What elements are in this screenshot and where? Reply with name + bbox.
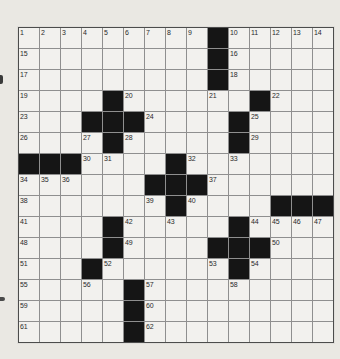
grid-cell-r10c12[interactable]: 44 xyxy=(250,217,270,237)
grid-cell-r15c14[interactable] xyxy=(292,322,312,342)
grid-cell-r7c9[interactable]: 32 xyxy=(187,154,207,174)
grid-cell-r10c4[interactable] xyxy=(82,217,102,237)
grid-cell-r9c4[interactable] xyxy=(82,196,102,216)
grid-cell-r11c4[interactable] xyxy=(82,238,102,258)
grid-cell-r11c8[interactable] xyxy=(166,238,186,258)
grid-cell-r14c2[interactable] xyxy=(40,301,60,321)
grid-cell-r10c15[interactable]: 47 xyxy=(313,217,333,237)
grid-cell-r15c12[interactable] xyxy=(250,322,270,342)
grid-cell-r7c14[interactable] xyxy=(292,154,312,174)
grid-cell-r2c14[interactable] xyxy=(292,49,312,69)
grid-cell-r12c10[interactable]: 53 xyxy=(208,259,228,279)
grid-cell-r4c9[interactable] xyxy=(187,91,207,111)
grid-cell-r12c14[interactable] xyxy=(292,259,312,279)
grid-cell-r2c12[interactable] xyxy=(250,49,270,69)
grid-cell-r3c5[interactable] xyxy=(103,70,123,90)
grid-cell-r2c11[interactable]: 16 xyxy=(229,49,249,69)
grid-cell-r13c3[interactable] xyxy=(61,280,81,300)
grid-cell-r3c12[interactable] xyxy=(250,70,270,90)
grid-cell-r13c8[interactable] xyxy=(166,280,186,300)
grid-cell-r9c3[interactable] xyxy=(61,196,81,216)
grid-cell-r4c2[interactable] xyxy=(40,91,60,111)
grid-cell-r9c6[interactable] xyxy=(124,196,144,216)
grid-cell-r15c1[interactable]: 61 xyxy=(19,322,39,342)
grid-cell-r10c13[interactable]: 45 xyxy=(271,217,291,237)
grid-cell-r6c7[interactable] xyxy=(145,133,165,153)
grid-cell-r11c13[interactable]: 50 xyxy=(271,238,291,258)
grid-cell-r10c8[interactable]: 43 xyxy=(166,217,186,237)
grid-cell-r13c9[interactable] xyxy=(187,280,207,300)
grid-cell-r4c3[interactable] xyxy=(61,91,81,111)
grid-cell-r9c12[interactable] xyxy=(250,196,270,216)
grid-cell-r15c3[interactable] xyxy=(61,322,81,342)
grid-cell-r9c5[interactable] xyxy=(103,196,123,216)
grid-cell-r2c2[interactable] xyxy=(40,49,60,69)
grid-cell-r11c3[interactable] xyxy=(61,238,81,258)
grid-cell-r14c10[interactable] xyxy=(208,301,228,321)
grid-cell-r6c9[interactable] xyxy=(187,133,207,153)
grid-cell-r12c1[interactable]: 51 xyxy=(19,259,39,279)
grid-cell-r5c9[interactable] xyxy=(187,112,207,132)
grid-cell-r14c3[interactable] xyxy=(61,301,81,321)
grid-cell-r2c15[interactable] xyxy=(313,49,333,69)
grid-cell-r3c6[interactable] xyxy=(124,70,144,90)
grid-cell-r11c1[interactable]: 48 xyxy=(19,238,39,258)
grid-cell-r1c6[interactable]: 6 xyxy=(124,28,144,48)
grid-cell-r13c7[interactable]: 57 xyxy=(145,280,165,300)
grid-cell-r10c14[interactable]: 46 xyxy=(292,217,312,237)
grid-cell-r1c3[interactable]: 3 xyxy=(61,28,81,48)
grid-cell-r5c15[interactable] xyxy=(313,112,333,132)
grid-cell-r11c2[interactable] xyxy=(40,238,60,258)
grid-cell-r13c11[interactable]: 58 xyxy=(229,280,249,300)
grid-cell-r6c3[interactable] xyxy=(61,133,81,153)
grid-cell-r6c12[interactable]: 29 xyxy=(250,133,270,153)
grid-cell-r15c5[interactable] xyxy=(103,322,123,342)
grid-cell-r12c3[interactable] xyxy=(61,259,81,279)
grid-cell-r1c5[interactable]: 5 xyxy=(103,28,123,48)
grid-cell-r8c1[interactable]: 34 xyxy=(19,175,39,195)
grid-cell-r4c15[interactable] xyxy=(313,91,333,111)
grid-cell-r1c8[interactable]: 8 xyxy=(166,28,186,48)
grid-cell-r5c12[interactable]: 25 xyxy=(250,112,270,132)
grid-cell-r10c7[interactable] xyxy=(145,217,165,237)
grid-cell-r1c2[interactable]: 2 xyxy=(40,28,60,48)
grid-cell-r3c9[interactable] xyxy=(187,70,207,90)
grid-cell-r8c6[interactable] xyxy=(124,175,144,195)
grid-cell-r10c3[interactable] xyxy=(61,217,81,237)
grid-cell-r15c10[interactable] xyxy=(208,322,228,342)
grid-cell-r8c10[interactable]: 37 xyxy=(208,175,228,195)
grid-cell-r11c6[interactable]: 49 xyxy=(124,238,144,258)
grid-cell-r5c10[interactable] xyxy=(208,112,228,132)
grid-cell-r9c11[interactable] xyxy=(229,196,249,216)
grid-cell-r6c2[interactable] xyxy=(40,133,60,153)
grid-cell-r12c7[interactable] xyxy=(145,259,165,279)
grid-cell-r8c11[interactable] xyxy=(229,175,249,195)
grid-cell-r2c1[interactable]: 15 xyxy=(19,49,39,69)
grid-cell-r7c7[interactable] xyxy=(145,154,165,174)
grid-cell-r15c8[interactable] xyxy=(166,322,186,342)
grid-cell-r1c7[interactable]: 7 xyxy=(145,28,165,48)
grid-cell-r11c7[interactable] xyxy=(145,238,165,258)
grid-cell-r12c2[interactable] xyxy=(40,259,60,279)
grid-cell-r8c12[interactable] xyxy=(250,175,270,195)
grid-cell-r9c1[interactable]: 38 xyxy=(19,196,39,216)
grid-cell-r15c4[interactable] xyxy=(82,322,102,342)
grid-cell-r7c4[interactable]: 30 xyxy=(82,154,102,174)
grid-cell-r11c14[interactable] xyxy=(292,238,312,258)
grid-cell-r4c8[interactable] xyxy=(166,91,186,111)
grid-cell-r6c6[interactable]: 28 xyxy=(124,133,144,153)
grid-cell-r8c15[interactable] xyxy=(313,175,333,195)
grid-cell-r3c15[interactable] xyxy=(313,70,333,90)
grid-cell-r2c7[interactable] xyxy=(145,49,165,69)
grid-cell-r4c13[interactable]: 22 xyxy=(271,91,291,111)
grid-cell-r6c10[interactable] xyxy=(208,133,228,153)
grid-cell-r4c7[interactable] xyxy=(145,91,165,111)
grid-cell-r3c13[interactable] xyxy=(271,70,291,90)
grid-cell-r13c15[interactable] xyxy=(313,280,333,300)
grid-cell-r15c13[interactable] xyxy=(271,322,291,342)
grid-cell-r7c13[interactable] xyxy=(271,154,291,174)
grid-cell-r3c1[interactable]: 17 xyxy=(19,70,39,90)
grid-cell-r10c2[interactable] xyxy=(40,217,60,237)
grid-cell-r14c14[interactable] xyxy=(292,301,312,321)
grid-cell-r15c11[interactable] xyxy=(229,322,249,342)
